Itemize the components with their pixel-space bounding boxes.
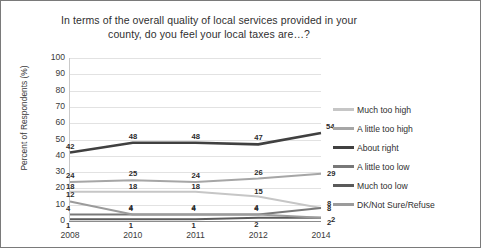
data-point-label: 8 (327, 199, 331, 208)
data-point-label: 1 (129, 221, 133, 230)
data-point-label: 24 (66, 171, 74, 180)
legend-line-icon (333, 108, 354, 111)
legend-item[interactable]: A little too low (333, 157, 475, 176)
legend-line-icon (333, 203, 354, 206)
chart-container: In terms of the overall quality of local… (0, 0, 481, 248)
data-point-label: 2 (331, 215, 335, 224)
data-point-label: 4 (254, 203, 258, 212)
series-line (70, 218, 321, 220)
data-point-label: 26 (254, 168, 262, 177)
data-point-label: 2 (327, 218, 331, 227)
data-point-label: 4 (192, 203, 196, 212)
data-point-label: 42 (66, 142, 74, 151)
legend-item[interactable]: Much too low (333, 176, 475, 195)
legend-item-label: A little too low (357, 162, 410, 172)
data-point-label: 48 (192, 132, 200, 141)
data-point-label: 24 (192, 171, 200, 180)
data-point-label: 18 (129, 182, 137, 191)
data-point-label: 18 (66, 182, 74, 191)
data-point-label: 12 (66, 190, 74, 199)
legend-item[interactable]: DK/Not Sure/Refuse (333, 195, 475, 214)
data-point-label: 1 (192, 221, 196, 230)
legend-line-icon (333, 127, 354, 130)
data-point-label: 48 (129, 132, 137, 141)
data-point-label: 25 (129, 169, 137, 178)
data-point-label: 2 (254, 220, 258, 229)
data-point-label: 1 (66, 221, 70, 230)
legend-item-label: Much too high (357, 105, 411, 115)
legend-item-label: A little too high (357, 124, 413, 134)
legend-item-label: Much too low (357, 181, 408, 191)
data-point-label: 4 (129, 203, 133, 212)
data-point-label: 4 (66, 204, 70, 213)
data-point-label: 18 (192, 182, 200, 191)
data-point-label: 47 (254, 133, 262, 142)
legend-item-label: About right (357, 143, 399, 153)
legend-line-icon (333, 146, 354, 149)
legend-item[interactable]: About right (333, 138, 475, 157)
legend-line-icon (333, 165, 354, 168)
legend-item[interactable]: Much too high (333, 100, 475, 119)
chart-legend: Much too highA little too highAbout righ… (333, 100, 475, 214)
legend-item[interactable]: A little too high (333, 119, 475, 138)
legend-item-label: DK/Not Sure/Refuse (357, 200, 435, 210)
data-point-label: 15 (254, 187, 262, 196)
legend-line-icon (333, 184, 354, 187)
